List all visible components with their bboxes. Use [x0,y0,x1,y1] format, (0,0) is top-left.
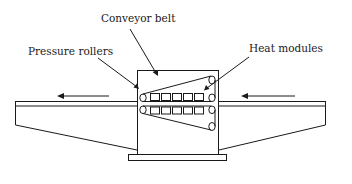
leader-pressure-rollers [98,58,137,87]
roller-icon [209,123,215,131]
arrowhead-icon [57,93,64,99]
arrowhead-icon [134,84,140,90]
label-conveyor-belt: Conveyor belt [101,13,175,24]
pressure-roller-icon [209,94,215,102]
left-table [15,102,137,151]
right-table [219,102,326,151]
leader-heat-modules [207,57,249,88]
heat-modules-lower [151,107,204,114]
heat-modules-upper [151,94,204,101]
arrowhead-icon [204,85,210,91]
pressure-roller-icon [140,94,146,102]
machine-housing [138,71,219,155]
label-heat-modules: Heat modules [249,43,323,54]
leader-conveyor-belt [130,29,156,73]
pressure-roller-icon [209,106,215,114]
label-pressure-rollers: Pressure rollers [28,46,113,57]
pressure-roller-icon [140,106,146,114]
arrowhead-icon [241,93,248,99]
diagram-canvas [0,0,352,184]
base-plate [129,155,227,161]
